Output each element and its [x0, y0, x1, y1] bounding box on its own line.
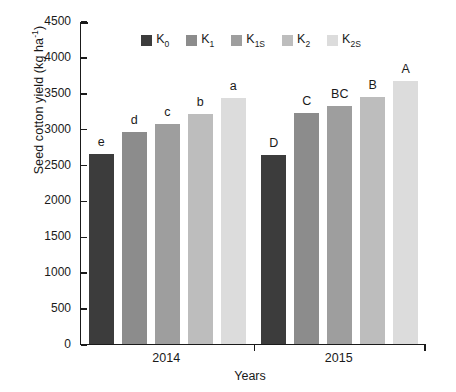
- y-axis-tick-label: 500: [51, 301, 71, 315]
- y-axis-tick-label: 1000: [44, 265, 71, 279]
- chart-figure: Seed cotton yield (kg ha-1) K0 K1 K1S K2…: [0, 0, 456, 392]
- y-axis-tick-label: 4000: [44, 50, 71, 64]
- bar-significance-label: C: [302, 94, 311, 108]
- bar[interactable]: BC: [327, 106, 352, 344]
- plot-area: 450040003500300025002000150010005000 edc…: [80, 22, 425, 345]
- bar-significance-label: b: [197, 95, 204, 109]
- x-axis-title: Years: [0, 369, 456, 383]
- bar[interactable]: C: [294, 113, 319, 344]
- bar[interactable]: D: [261, 155, 286, 344]
- x-axis-group-label: 2015: [325, 351, 353, 365]
- x-axis-group-label: 2014: [152, 351, 180, 365]
- bar[interactable]: d: [122, 132, 147, 344]
- x-axis-tick: [424, 344, 426, 351]
- y-axis-tick-label: 1500: [44, 229, 71, 243]
- bar-significance-label: a: [230, 79, 237, 93]
- y-axis-tick-label: 3500: [44, 86, 71, 100]
- bar-significance-label: c: [164, 105, 170, 119]
- bar-significance-label: d: [131, 113, 138, 127]
- y-axis-tick-label: 2500: [44, 158, 71, 172]
- bar-significance-label: A: [402, 62, 410, 76]
- bar-significance-label: e: [98, 135, 105, 149]
- bar-significance-label: D: [269, 136, 278, 150]
- x-axis-title-text: Years: [190, 369, 266, 383]
- y-axis-tick-label: 4500: [44, 14, 71, 28]
- y-axis-tick-label: 0: [64, 337, 71, 351]
- x-axis-tick: [254, 344, 256, 351]
- y-axis-tick-mark: [81, 344, 87, 346]
- bar[interactable]: e: [89, 154, 114, 344]
- bar-series-container: edcbaDCBCBA: [81, 22, 425, 344]
- bar-significance-label: B: [369, 78, 377, 92]
- bar[interactable]: A: [393, 81, 418, 344]
- bar[interactable]: b: [188, 114, 213, 344]
- y-axis-tick-label: 2000: [44, 193, 71, 207]
- y-axis-tick-label: 3000: [44, 122, 71, 136]
- bar[interactable]: B: [360, 97, 385, 344]
- bar[interactable]: a: [221, 98, 246, 344]
- bar[interactable]: c: [155, 124, 180, 344]
- bar-significance-label: BC: [331, 87, 348, 101]
